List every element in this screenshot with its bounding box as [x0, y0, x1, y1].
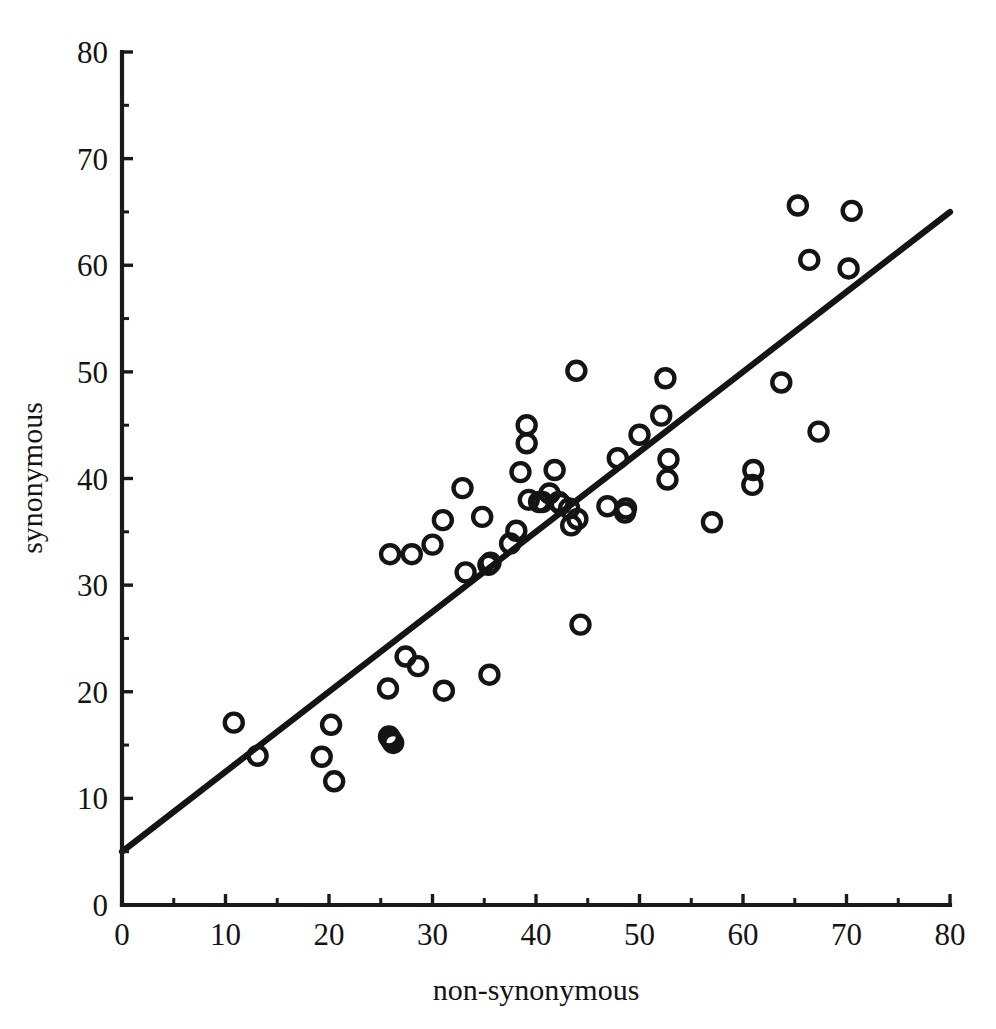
regression-line-segment: [122, 212, 950, 852]
data-point: [435, 682, 453, 700]
data-point: [843, 202, 861, 220]
y-tick-label: 0: [93, 888, 109, 923]
data-point: [379, 680, 397, 698]
data-point: [572, 616, 590, 634]
data-point: [810, 423, 828, 441]
data-point: [567, 362, 585, 380]
data-point: [424, 536, 442, 554]
data-point: [434, 511, 452, 529]
data-point: [381, 545, 399, 563]
x-tick-label: 60: [728, 917, 759, 952]
data-point: [609, 449, 627, 467]
data-point: [656, 369, 674, 387]
x-tick-label: 20: [314, 917, 345, 952]
data-point: [652, 407, 670, 425]
data-point: [546, 461, 564, 479]
data-point: [789, 197, 807, 215]
x-tick-label: 0: [114, 917, 130, 952]
data-point: [631, 426, 649, 444]
data-point: [800, 251, 818, 269]
data-point: [225, 714, 243, 732]
data-point: [703, 513, 721, 531]
regression-line: [122, 212, 950, 852]
x-tick-label: 70: [831, 917, 862, 952]
y-axis-title: synonymous: [15, 402, 48, 554]
x-tick-label: 30: [417, 917, 448, 952]
data-point: [313, 748, 331, 766]
scatter-plot-figure: 0102030405060708001020304050607080 non-s…: [0, 0, 996, 1029]
x-axis-title: non-synonymous: [433, 973, 640, 1006]
data-point: [409, 657, 427, 675]
x-tick-label: 10: [210, 917, 241, 952]
data-point: [454, 479, 472, 497]
data-point: [511, 463, 529, 481]
axes-group: [122, 52, 950, 905]
data-point: [322, 716, 340, 734]
y-tick-label: 10: [77, 781, 108, 816]
y-tick-label: 80: [77, 35, 108, 70]
ticks-group: [122, 52, 950, 905]
x-tick-label: 80: [935, 917, 966, 952]
data-point: [403, 545, 421, 563]
data-point: [325, 772, 343, 790]
data-point: [480, 666, 498, 684]
data-point: [473, 508, 491, 526]
data-point: [518, 434, 536, 452]
y-tick-label: 40: [77, 462, 108, 497]
y-tick-label: 60: [77, 248, 108, 283]
y-tick-label: 20: [77, 675, 108, 710]
data-point: [457, 563, 475, 581]
x-tick-label: 50: [624, 917, 655, 952]
y-tick-label: 70: [77, 142, 108, 177]
y-tick-label: 50: [77, 355, 108, 390]
data-point: [772, 374, 790, 392]
data-point: [518, 416, 536, 434]
data-point: [840, 259, 858, 277]
x-tick-label: 40: [521, 917, 552, 952]
data-point: [659, 450, 677, 468]
data-point: [598, 497, 616, 515]
y-tick-label: 30: [77, 568, 108, 603]
data-point: [658, 471, 676, 489]
plot-canvas: 0102030405060708001020304050607080 non-s…: [0, 0, 996, 1029]
